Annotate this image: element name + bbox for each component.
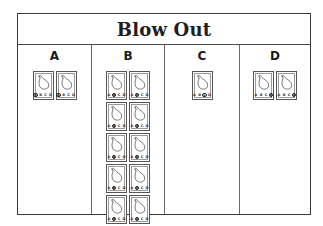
answer-card[interactable]: ABCD	[129, 133, 150, 162]
option-c: C	[117, 186, 121, 191]
option-c: C	[264, 93, 268, 98]
balloon-icon	[133, 167, 146, 184]
option-c: C	[140, 186, 144, 191]
answer-options: ABCD	[277, 93, 296, 98]
column-d: D ABCDABCD	[239, 45, 310, 214]
answer-card[interactable]: ABCD	[129, 102, 150, 131]
answer-options: ABCD	[130, 93, 149, 98]
answer-options: ABCD	[107, 124, 126, 129]
answer-card[interactable]: ABCD	[106, 71, 127, 100]
answer-options: ABCD	[34, 93, 53, 98]
option-d: D	[122, 217, 126, 222]
option-b: B	[259, 93, 263, 98]
balloon-icon	[196, 74, 209, 91]
answer-card[interactable]: ABCD	[106, 133, 127, 162]
balloon-icon	[257, 74, 270, 91]
option-b: B	[135, 124, 139, 129]
answer-options: ABCD	[107, 155, 126, 160]
option-d: D	[122, 124, 126, 129]
option-a: A	[107, 124, 111, 129]
answer-card[interactable]: ABCD	[56, 71, 77, 100]
option-b: B	[62, 93, 66, 98]
option-d: D	[292, 93, 296, 98]
option-d: D	[72, 93, 76, 98]
answer-card[interactable]: ABCD	[129, 195, 150, 224]
option-c: C	[117, 217, 121, 222]
option-a: A	[254, 93, 258, 98]
balloon-icon	[110, 74, 123, 91]
card-group: ABCD	[165, 71, 239, 100]
option-a: A	[130, 93, 134, 98]
balloon-icon	[133, 198, 146, 215]
answer-options: ABCD	[130, 186, 149, 191]
option-a: A	[130, 155, 134, 160]
column-heading: C	[165, 49, 239, 63]
option-a: A	[107, 186, 111, 191]
column-a: A ABCDABCD	[18, 45, 91, 214]
column-heading: B	[92, 49, 164, 63]
option-b: B	[135, 186, 139, 191]
answer-options: ABCD	[107, 186, 126, 191]
option-b: B	[112, 124, 116, 129]
answer-options: ABCD	[130, 124, 149, 129]
card-group: ABCDABCD	[18, 71, 91, 100]
answer-card[interactable]: ABCD	[106, 102, 127, 131]
option-d: D	[122, 155, 126, 160]
sheet-title: Blow Out	[117, 19, 212, 40]
answer-options: ABCD	[130, 155, 149, 160]
column-b: B ABCDABCDABCDABCDABCDABCDABCDABCDABCDAB…	[91, 45, 164, 214]
balloon-icon	[110, 136, 123, 153]
option-c: C	[140, 155, 144, 160]
balloon-icon	[37, 74, 50, 91]
option-a: A	[130, 186, 134, 191]
option-a: A	[107, 155, 111, 160]
option-b: B	[39, 93, 43, 98]
answer-options: ABCD	[57, 93, 76, 98]
balloon-icon	[133, 74, 146, 91]
option-a: A	[34, 93, 38, 98]
option-d: D	[145, 155, 149, 160]
option-d: D	[49, 93, 53, 98]
option-c: C	[67, 93, 71, 98]
option-d: D	[208, 93, 212, 98]
option-d: D	[145, 124, 149, 129]
option-b: B	[112, 186, 116, 191]
option-d: D	[145, 217, 149, 222]
option-a: A	[193, 93, 197, 98]
answer-card[interactable]: ABCD	[253, 71, 274, 100]
answer-card[interactable]: ABCD	[129, 164, 150, 193]
balloon-icon	[133, 105, 146, 122]
answer-options: ABCD	[107, 93, 126, 98]
title-bar: Blow Out	[18, 14, 310, 45]
option-a: A	[277, 93, 281, 98]
answer-card[interactable]: ABCD	[106, 164, 127, 193]
answer-options: ABCD	[107, 217, 126, 222]
card-group: ABCDABCDABCDABCDABCDABCDABCDABCDABCDABCD…	[92, 71, 164, 226]
option-c: C	[140, 217, 144, 222]
balloon-icon	[280, 74, 293, 91]
option-b: B	[135, 155, 139, 160]
option-b: B	[112, 217, 116, 222]
option-b: B	[135, 93, 139, 98]
option-d: D	[145, 93, 149, 98]
option-b: B	[135, 217, 139, 222]
answer-card[interactable]: ABCD	[33, 71, 54, 100]
answer-card[interactable]: ABCD	[192, 71, 213, 100]
option-a: A	[57, 93, 61, 98]
balloon-icon	[133, 136, 146, 153]
answer-card[interactable]: ABCD	[129, 71, 150, 100]
column-heading: A	[18, 49, 91, 63]
column-c: C ABCD	[164, 45, 239, 214]
answer-options: ABCD	[254, 93, 273, 98]
card-group: ABCDABCD	[240, 71, 310, 100]
answer-options: ABCD	[130, 217, 149, 222]
balloon-icon	[110, 198, 123, 215]
option-d: D	[122, 186, 126, 191]
option-d: D	[145, 186, 149, 191]
answer-card[interactable]: ABCD	[276, 71, 297, 100]
option-c: C	[140, 93, 144, 98]
option-a: A	[107, 217, 111, 222]
answer-card[interactable]: ABCD	[106, 195, 127, 224]
option-b: B	[282, 93, 286, 98]
option-b: B	[198, 93, 202, 98]
